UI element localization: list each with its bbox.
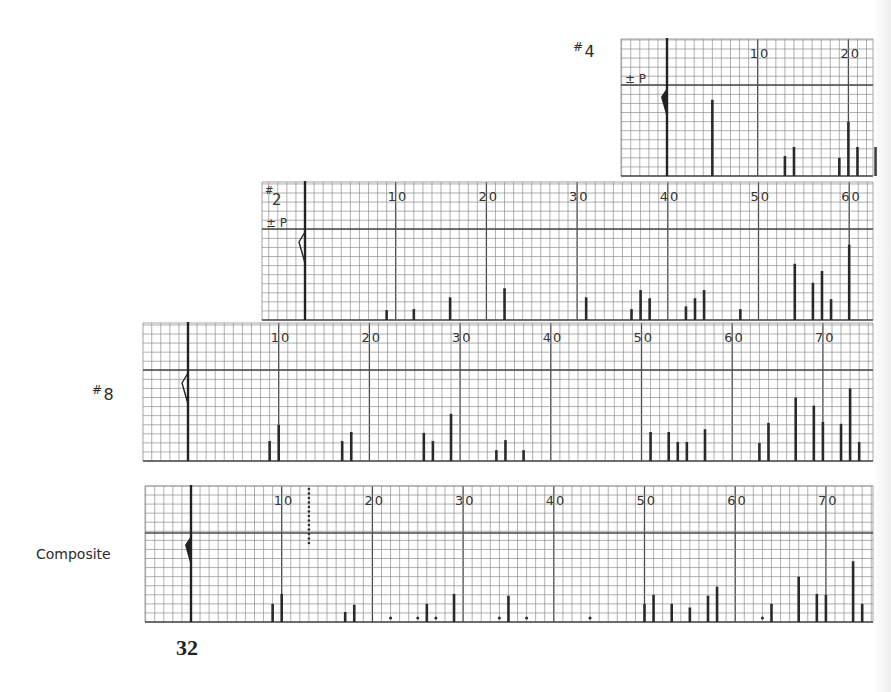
dotted-line-dot bbox=[308, 515, 311, 518]
tick-label: 60 bbox=[724, 330, 745, 345]
panel-4: 1020± P bbox=[621, 38, 876, 176]
data-dot bbox=[416, 617, 419, 620]
tick-label: 20 bbox=[478, 189, 499, 204]
tick-label: 50 bbox=[637, 493, 658, 508]
tick-label: 70 bbox=[818, 493, 839, 508]
dotted-line-dot bbox=[308, 519, 311, 522]
page-number: 32 bbox=[176, 635, 198, 661]
tick-label: 60 bbox=[841, 189, 862, 204]
tick-label: 40 bbox=[543, 330, 564, 345]
panel-composite: 10203040506070 bbox=[145, 485, 873, 622]
data-dot bbox=[389, 617, 392, 620]
panel-2: 102030405060± P#2 bbox=[262, 181, 873, 320]
dotted-line-dot bbox=[308, 492, 311, 495]
tick-label: 30 bbox=[455, 493, 476, 508]
tick-label: 20 bbox=[840, 46, 861, 61]
dotted-line-dot bbox=[308, 528, 311, 531]
panel-label-8: #8 bbox=[92, 383, 114, 404]
panel-number: 8 bbox=[104, 385, 115, 404]
page-edge-shadow bbox=[873, 0, 891, 692]
panel-label-4: #4 bbox=[573, 40, 595, 61]
chart-canvas: 1020± P102030405060± P#21020304050607010… bbox=[0, 0, 891, 692]
panel-8: 10203040506070 bbox=[143, 322, 873, 461]
tick-label: 30 bbox=[452, 330, 473, 345]
tick-label: 40 bbox=[660, 189, 681, 204]
hash-symbol: # bbox=[92, 383, 103, 397]
tick-label: 20 bbox=[361, 330, 382, 345]
tick-label: 70 bbox=[815, 330, 836, 345]
tick-label: 10 bbox=[388, 189, 409, 204]
data-dot bbox=[498, 617, 501, 620]
tick-label: 60 bbox=[727, 493, 748, 508]
tick-label: 20 bbox=[364, 493, 385, 508]
panel-number: 2 bbox=[272, 191, 282, 209]
dotted-line-dot bbox=[308, 524, 311, 527]
dotted-line-dot bbox=[308, 542, 311, 545]
tick-label: 10 bbox=[274, 493, 295, 508]
panel-number: 4 bbox=[585, 42, 596, 61]
figure-page: 1020± P102030405060± P#21020304050607010… bbox=[0, 0, 891, 692]
data-dot bbox=[525, 617, 528, 620]
dotted-line-dot bbox=[308, 501, 311, 504]
tick-label: 10 bbox=[271, 330, 292, 345]
data-dot bbox=[589, 617, 592, 620]
dotted-line-dot bbox=[308, 497, 311, 500]
p-label: ± P bbox=[625, 72, 646, 86]
tick-label: 40 bbox=[546, 493, 567, 508]
dotted-line-dot bbox=[308, 533, 311, 536]
data-dot bbox=[434, 617, 437, 620]
dotted-line-dot bbox=[308, 537, 311, 540]
data-dot bbox=[761, 617, 764, 620]
dotted-line-dot bbox=[308, 506, 311, 509]
hash-symbol: # bbox=[573, 40, 584, 54]
filled-marker-icon bbox=[661, 88, 667, 118]
tick-label: 50 bbox=[634, 330, 655, 345]
composite-label: Composite bbox=[36, 546, 111, 562]
tick-label: 10 bbox=[750, 46, 771, 61]
dotted-line-dot bbox=[308, 510, 311, 513]
tick-label: 30 bbox=[569, 189, 590, 204]
tick-label: 50 bbox=[751, 189, 772, 204]
dotted-line-dot bbox=[308, 488, 311, 491]
p-label: ± P bbox=[266, 216, 287, 230]
